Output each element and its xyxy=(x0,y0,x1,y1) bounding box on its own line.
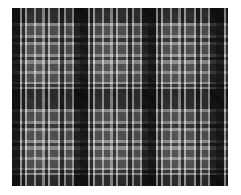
plaid-fabric-texture: Black, white and grey plaid (tartan) fab… xyxy=(12,8,228,186)
